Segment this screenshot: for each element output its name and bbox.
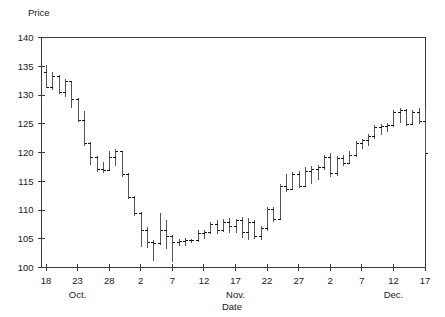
ohlc-bar [170, 235, 175, 261]
ohlc-bar [316, 165, 321, 180]
x-axis-tick-labels: 1823282712172227271217 [41, 275, 431, 286]
y-tick-label: 100 [18, 262, 34, 273]
ohlc-bar [44, 65, 49, 88]
ohlc-bar [391, 110, 396, 127]
ohlc-bar [309, 166, 314, 183]
ohlc-chart: 100105110115120125130135140 182328271217… [0, 0, 445, 317]
y-axis-title: Price [28, 7, 50, 18]
x-axis-month-labels: Oct.Nov.Dec. [69, 289, 403, 300]
ohlc-bar [164, 220, 169, 249]
x-tick-label: 17 [230, 275, 241, 286]
ohlc-bar [151, 240, 156, 261]
ohlc-bar [410, 110, 415, 125]
chart-canvas: 100105110115120125130135140 182328271217… [0, 0, 445, 317]
ohlc-bar [215, 220, 220, 234]
ohlc-bar [335, 156, 340, 176]
ohlc-bar [145, 227, 150, 248]
ohlc-bar [379, 124, 384, 136]
ohlc-bars [44, 65, 428, 262]
ohlc-bar [107, 151, 112, 171]
ohlc-bar [259, 226, 264, 240]
ohlc-bar [132, 196, 137, 216]
ohlc-bar [265, 207, 270, 231]
ohlc-bar [404, 109, 409, 126]
x-tick-label: 27 [293, 275, 304, 286]
ohlc-bar [354, 141, 359, 157]
x-tick-label: 7 [170, 275, 175, 286]
y-tick-label: 110 [18, 204, 33, 215]
ohlc-bar [423, 109, 428, 155]
y-tick-label: 125 [18, 118, 34, 129]
ohlc-bar [69, 81, 74, 108]
ohlc-bar [57, 75, 62, 93]
ohlc-bar [126, 173, 131, 198]
x-month-label: Dec. [384, 289, 404, 300]
plot-frame [42, 38, 426, 268]
y-tick-label: 120 [18, 147, 34, 158]
ohlc-bar [240, 217, 245, 238]
x-tick-label: 7 [359, 275, 364, 286]
ohlc-bar [189, 239, 194, 244]
ohlc-bar [177, 239, 182, 246]
ohlc-bar [139, 212, 144, 247]
ohlc-bar [221, 219, 226, 232]
ohlc-bar [297, 171, 302, 188]
ohlc-bar [328, 153, 333, 177]
ohlc-bar [183, 238, 188, 246]
ohlc-bar [385, 123, 390, 132]
ohlc-bar [196, 230, 201, 243]
ohlc-bar [303, 167, 308, 187]
ohlc-bar [208, 222, 213, 234]
y-tick-label: 135 [18, 61, 34, 72]
x-tick-label: 18 [41, 275, 52, 286]
x-axis-title: Date [222, 301, 242, 312]
ohlc-bar [341, 155, 346, 167]
ohlc-bar [113, 149, 118, 166]
ohlc-bar [234, 219, 239, 233]
ohlc-bar [284, 174, 289, 191]
x-tick-label: 12 [388, 275, 399, 286]
x-tick-label: 2 [328, 275, 333, 286]
ohlc-bar [360, 139, 365, 149]
x-tick-label: 22 [262, 275, 273, 286]
x-tick-label: 2 [138, 275, 143, 286]
x-month-label: Oct. [69, 289, 86, 300]
y-axis-tick-labels: 100105110115120125130135140 [18, 32, 34, 273]
x-tick-label: 28 [104, 275, 115, 286]
ohlc-bar [50, 72, 55, 90]
ohlc-bar [347, 151, 352, 164]
y-tick-label: 115 [18, 176, 33, 187]
ohlc-bar [290, 172, 295, 190]
ohlc-bar [101, 162, 106, 173]
ohlc-bar [278, 184, 283, 221]
ohlc-bar [372, 125, 377, 139]
ohlc-bar [76, 98, 81, 122]
ohlc-bar [88, 142, 93, 164]
x-tick-label: 17 [420, 275, 431, 286]
ohlc-bar [246, 218, 251, 240]
ohlc-bar [366, 134, 371, 146]
x-tick-label: 23 [72, 275, 83, 286]
ohlc-bar [120, 151, 125, 177]
ohlc-bar [82, 111, 87, 146]
ohlc-bar [322, 155, 327, 170]
y-tick-label: 105 [18, 233, 34, 244]
ohlc-bar [417, 108, 422, 124]
ohlc-bar [271, 207, 276, 222]
ohlc-bar [398, 108, 403, 123]
y-tick-label: 130 [18, 89, 34, 100]
ohlc-bar [202, 230, 207, 240]
x-tick-label: 12 [199, 275, 210, 286]
ohlc-bar [95, 156, 100, 172]
ohlc-bar [252, 220, 257, 238]
x-month-label: Nov. [226, 289, 245, 300]
y-tick-label: 140 [18, 32, 34, 43]
ohlc-bar [158, 213, 163, 244]
ohlc-bar [227, 218, 232, 233]
ohlc-bar [63, 79, 68, 97]
